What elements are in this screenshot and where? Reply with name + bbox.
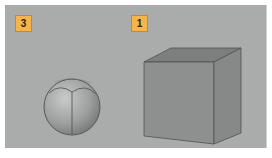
3d-viewport[interactable]: 3 1 — [5, 5, 267, 148]
sphere-object[interactable] — [44, 79, 100, 135]
scene-objects — [5, 5, 266, 148]
cube-object[interactable] — [144, 48, 241, 144]
